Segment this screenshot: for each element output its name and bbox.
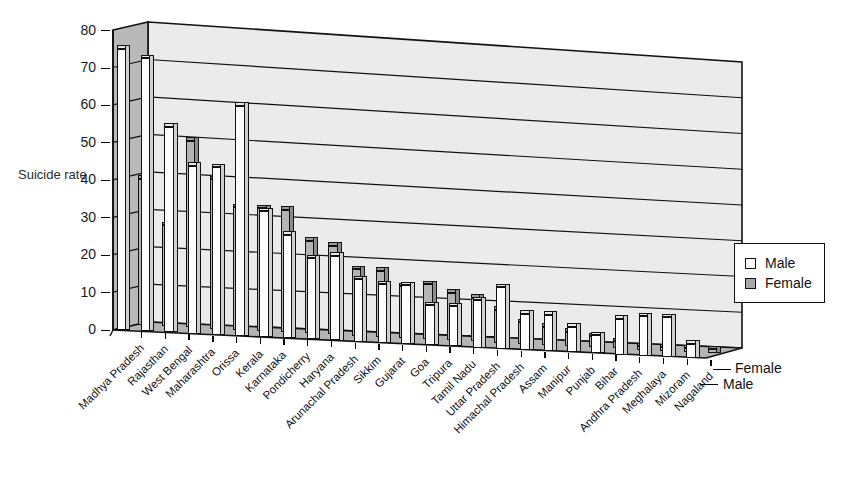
category-tick: [568, 353, 569, 359]
category-tick: [355, 343, 356, 349]
category-tick: [639, 357, 640, 363]
legend-label-female: Female: [765, 275, 812, 291]
depth-label-female: Female: [735, 360, 782, 376]
category-tick: [663, 358, 664, 364]
category-tick: [260, 338, 261, 344]
category-tick: [521, 351, 522, 357]
category-tick: [236, 337, 237, 343]
category-tick: [687, 359, 688, 365]
category-tick: [283, 339, 284, 345]
category-tick: [188, 334, 189, 340]
depth-label-male: Male: [723, 376, 753, 392]
legend-item-female: Female: [745, 275, 812, 291]
depth-tick-male: [700, 384, 718, 385]
category-tick: [615, 355, 616, 361]
category-tick: [449, 347, 450, 353]
category-tick: [544, 352, 545, 358]
depth-tick-female: [713, 369, 731, 370]
category-tick: [141, 332, 142, 338]
legend-swatch-female-icon: [745, 278, 756, 289]
category-tick: [331, 341, 332, 347]
chart-legend: Male Female: [734, 243, 825, 303]
legend-label-male: Male: [765, 255, 795, 271]
legend-item-male: Male: [745, 255, 812, 271]
chart-figure: Suicide rate 80 70 60 50 40 30 20 10 0 M…: [0, 0, 867, 499]
category-tick: [497, 350, 498, 356]
category-tick: [473, 348, 474, 354]
category-tick: [307, 340, 308, 346]
category-tick: [710, 360, 711, 366]
category-tick: [592, 354, 593, 360]
category-tick: [426, 346, 427, 352]
category-tick: [378, 344, 379, 350]
category-tick: [402, 345, 403, 351]
legend-swatch-male-icon: [745, 258, 756, 269]
category-tick: [212, 336, 213, 342]
category-tick: [165, 333, 166, 339]
